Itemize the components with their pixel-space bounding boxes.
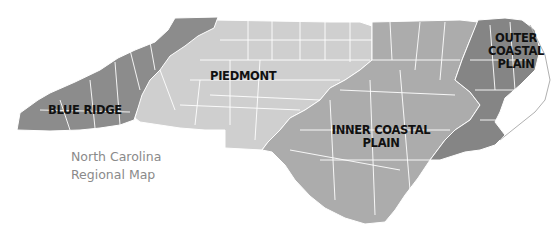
map-title-line1: North Carolina: [71, 148, 161, 166]
label-inner-coastal-line2: PLAIN: [331, 137, 431, 150]
label-blue-ridge: BLUE RIDGE: [48, 104, 122, 117]
nc-regional-map: [0, 0, 556, 237]
label-piedmont: PIEDMONT: [210, 70, 276, 83]
label-outer-coastal-line3: PLAIN: [486, 58, 546, 71]
label-piedmont-line1: PIEDMONT: [210, 69, 276, 83]
label-blue-ridge-line1: BLUE RIDGE: [48, 103, 122, 117]
map-title-line2: Regional Map: [71, 166, 161, 184]
label-inner-coastal-plain: INNER COASTAL PLAIN: [331, 124, 431, 150]
map-title: North Carolina Regional Map: [71, 148, 161, 184]
label-outer-coastal-plain: OUTER COASTAL PLAIN: [486, 32, 546, 71]
